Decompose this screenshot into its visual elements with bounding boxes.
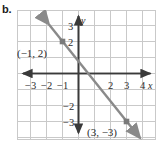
point-marker-upper xyxy=(60,39,66,45)
x-tick-pos3: 3 xyxy=(124,80,129,91)
y-axis-label: y xyxy=(80,15,86,26)
x-tick-pos2: 2 xyxy=(108,80,113,91)
point-marker-lower xyxy=(124,119,130,125)
x-tick-neg2: −2 xyxy=(41,80,52,91)
point-label-lower-right: (3, −3) xyxy=(87,126,117,139)
x-tick-pos4: 4 xyxy=(140,80,146,91)
x-tick-neg3: −3 xyxy=(25,80,36,91)
point-label-upper-left: (−1, 2) xyxy=(17,47,47,60)
y-tick-neg2: −2 xyxy=(63,101,74,112)
plot-background xyxy=(17,10,156,140)
x-axis-label: x xyxy=(147,80,153,91)
part-label: b. xyxy=(2,3,11,15)
x-tick-neg1: −1 xyxy=(57,80,68,91)
y-tick-pos3: 3 xyxy=(68,21,73,32)
graph-svg: −3 −2 −1 2 3 4 3 2 −2 −3 y x (−1, 2) (3,… xyxy=(17,10,156,140)
coordinate-plane: −3 −2 −1 2 3 4 3 2 −2 −3 y x (−1, 2) (3,… xyxy=(17,10,156,140)
graph-figure: b. xyxy=(0,0,158,142)
y-tick-pos2: 2 xyxy=(68,37,73,48)
y-tick-neg3: −3 xyxy=(63,117,74,128)
